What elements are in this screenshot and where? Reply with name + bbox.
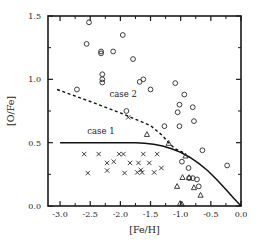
y-tick-label: 1.0 xyxy=(28,75,41,84)
data-point-cross xyxy=(147,161,151,165)
data-point-circle xyxy=(200,148,205,153)
x-tick-label: -3.0 xyxy=(52,210,67,219)
data-point-triangle xyxy=(191,185,196,190)
data-point-cross xyxy=(126,115,130,119)
data-point-cross xyxy=(155,152,159,156)
data-point-cross xyxy=(96,152,100,156)
data-point-circle xyxy=(87,20,92,25)
data-point-circle xyxy=(75,87,80,92)
data-point-circle xyxy=(186,166,191,171)
x-axis-title: [Fe/H] xyxy=(129,224,160,235)
y-tick-label: 0.5 xyxy=(28,139,41,148)
axis-ticks xyxy=(48,16,241,206)
data-point-circle xyxy=(84,41,89,46)
data-point-triangle xyxy=(198,192,203,197)
annotation-case-2: case 2 xyxy=(110,89,137,99)
data-point-cross xyxy=(135,170,139,174)
data-point-cross xyxy=(128,161,132,165)
data-point-cross xyxy=(112,159,116,163)
annotation-case-1: case 1 xyxy=(87,126,114,136)
data-point-triangle xyxy=(180,175,185,180)
axes-frame xyxy=(48,16,241,206)
data-point-circle xyxy=(196,184,201,189)
data-point-circle xyxy=(177,124,182,129)
data-point-cross xyxy=(86,171,90,175)
data-markers xyxy=(75,20,230,206)
data-point-cross xyxy=(105,161,109,165)
x-tick-label: -1.5 xyxy=(143,210,158,219)
data-point-circle xyxy=(124,109,129,114)
model-curves xyxy=(57,89,241,206)
data-point-circle xyxy=(190,105,195,110)
x-tick-label: -1.0 xyxy=(173,210,188,219)
x-tick-label: 0.0 xyxy=(235,210,248,219)
data-point-circle xyxy=(100,80,105,85)
data-point-triangle xyxy=(144,132,149,137)
data-point-circle xyxy=(177,102,182,107)
curve-annotations: case 1case 2 xyxy=(87,89,137,136)
x-tick-label: -2.0 xyxy=(113,210,128,219)
data-point-circle xyxy=(225,163,230,168)
figure-container: -3.0-2.5-2.0-1.5-1.0-0.50.00.00.51.01.5 … xyxy=(0,0,260,244)
data-point-cross xyxy=(159,166,163,170)
data-point-cross xyxy=(82,152,86,156)
data-point-circle xyxy=(179,159,184,164)
data-point-circle xyxy=(175,110,180,115)
data-point-circle xyxy=(148,87,153,92)
data-point-cross xyxy=(136,161,140,165)
data-point-cross xyxy=(121,152,125,156)
data-point-triangle xyxy=(174,184,179,189)
data-point-cross xyxy=(152,170,156,174)
axis-tick-labels: -3.0-2.5-2.0-1.5-1.0-0.50.00.00.51.01.5 xyxy=(28,12,247,219)
data-point-circle xyxy=(182,92,187,97)
x-tick-label: -2.5 xyxy=(83,210,98,219)
data-point-circle xyxy=(192,119,197,124)
data-point-circle xyxy=(131,57,136,62)
data-point-cross xyxy=(141,152,145,156)
data-point-circle xyxy=(120,33,125,38)
data-point-circle xyxy=(137,79,142,84)
data-point-cross xyxy=(105,168,109,172)
curve-case-1 xyxy=(60,143,241,206)
data-point-circle xyxy=(100,72,105,77)
data-point-cross xyxy=(122,171,126,175)
data-point-cross xyxy=(117,152,121,156)
x-tick-label: -0.5 xyxy=(203,210,218,219)
y-axis-title: [O/Fe] xyxy=(5,96,16,126)
data-point-circle xyxy=(162,124,167,129)
scatter-plot: -3.0-2.5-2.0-1.5-1.0-0.50.00.00.51.01.5 … xyxy=(0,0,260,244)
y-tick-label: 0.0 xyxy=(28,202,41,211)
y-tick-label: 1.5 xyxy=(28,12,41,21)
data-point-circle xyxy=(111,49,116,54)
data-point-circle xyxy=(173,81,178,86)
